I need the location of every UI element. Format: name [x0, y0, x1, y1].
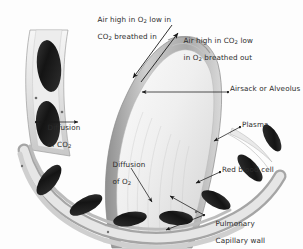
figure-canvas: Air high in O2 low in CO2 breathed in Ai… — [0, 0, 303, 249]
label-pulmonary-capillary-wall: Pulmonary Capillary wall — [206, 211, 265, 249]
label-red-blood-cell: Red blood cell — [222, 166, 274, 175]
label-diffusion-o2: Diffusion of O2 — [103, 152, 145, 195]
label-breathed-in: Air high in O2 low in CO2 breathed in — [88, 7, 171, 50]
label-alveolus: Airsack or Alveolus — [230, 85, 300, 94]
label-breathed-out: Air high in CO2 low in O2 breathed out — [174, 28, 253, 71]
label-diffusion-co2: Diffusion of CO2 — [38, 115, 80, 158]
label-plasma: Plasma — [242, 121, 269, 130]
